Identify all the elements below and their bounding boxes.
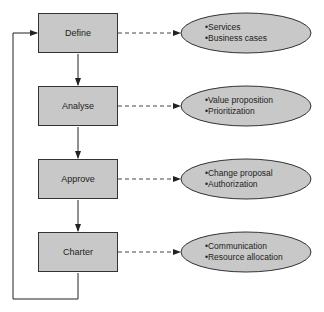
detail-item: Change proposal	[205, 168, 315, 179]
step-label: Charter	[63, 247, 93, 257]
detail-item: Services	[205, 22, 315, 33]
detail-list-define: Services Business cases	[205, 22, 315, 44]
step-label: Analyse	[62, 101, 94, 111]
detail-list-analyse: Value proposition Prioritization	[205, 95, 315, 117]
step-box-charter: Charter	[38, 232, 118, 272]
step-label: Define	[65, 28, 91, 38]
detail-item: Communication	[205, 241, 315, 252]
step-box-approve: Approve	[38, 159, 118, 199]
detail-item: Resource allocation	[205, 252, 315, 263]
detail-item: Authorization	[205, 179, 315, 190]
step-label: Approve	[61, 174, 95, 184]
detail-item: Value proposition	[205, 95, 315, 106]
detail-list-approve: Change proposal Authorization	[205, 168, 315, 190]
detail-item: Business cases	[205, 33, 315, 44]
detail-list-charter: Communication Resource allocation	[205, 241, 315, 263]
detail-item: Prioritization	[205, 106, 315, 117]
step-box-define: Define	[38, 13, 118, 53]
step-box-analyse: Analyse	[38, 86, 118, 126]
